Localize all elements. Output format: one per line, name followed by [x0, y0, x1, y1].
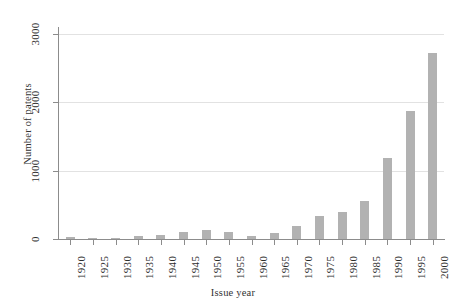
bar-1935 — [134, 236, 143, 239]
x-tick-label-1950: 1950 — [211, 256, 223, 279]
bar-1950 — [202, 230, 211, 239]
bar-1930 — [111, 238, 120, 240]
x-tick-mark-1950 — [206, 240, 207, 245]
y-tick-label-0: 0 — [29, 222, 41, 256]
bar-1990 — [383, 158, 392, 239]
x-tick-label-1975: 1975 — [324, 256, 336, 279]
y-tick-label-3000: 3000 — [29, 17, 41, 51]
y-tick-mark-1000 — [53, 171, 59, 172]
x-tick-label-1960: 1960 — [257, 256, 269, 279]
bar-1995 — [406, 111, 415, 239]
x-tick-mark-1985 — [365, 240, 366, 245]
x-tick-mark-1930 — [116, 240, 117, 245]
x-tick-label-2000: 2000 — [438, 256, 450, 279]
bar-1955 — [224, 232, 233, 239]
x-tick-label-1980: 1980 — [347, 256, 359, 279]
x-axis-title: Issue year — [0, 287, 466, 298]
x-tick-mark-1980 — [342, 240, 343, 245]
y-tick-label-2000: 2000 — [29, 85, 41, 119]
x-tick-label-1990: 1990 — [392, 256, 404, 279]
x-tick-label-1930: 1930 — [121, 256, 133, 279]
x-tick-label-1965: 1965 — [279, 256, 291, 279]
y-tick-mark-2000 — [53, 102, 59, 103]
x-tick-mark-1925 — [93, 240, 94, 245]
x-tick-label-1955: 1955 — [234, 256, 246, 279]
x-tick-mark-1945 — [184, 240, 185, 245]
x-tick-label-1940: 1940 — [166, 256, 178, 279]
bar-1925 — [88, 238, 97, 240]
x-tick-label-1985: 1985 — [370, 256, 382, 279]
y-tick-label-1000: 1000 — [29, 154, 41, 188]
x-tick-mark-1940 — [161, 240, 162, 245]
y-tick-mark-3000 — [53, 34, 59, 35]
patent-bar-chart: Number of patents 0100020003000 19201925… — [0, 0, 466, 306]
bars-group — [59, 27, 444, 239]
x-tick-mark-1935 — [138, 240, 139, 245]
bar-1920 — [66, 237, 75, 239]
x-tick-mark-2000 — [433, 240, 434, 245]
bar-2000 — [428, 53, 437, 239]
x-tick-label-1925: 1925 — [98, 256, 110, 279]
x-tick-label-1995: 1995 — [415, 256, 427, 279]
x-tick-label-1970: 1970 — [302, 256, 314, 279]
x-tick-mark-1965 — [274, 240, 275, 245]
bar-1975 — [315, 216, 324, 239]
bar-1980 — [338, 212, 347, 239]
x-tick-label-1920: 1920 — [75, 256, 87, 279]
x-tick-label-1945: 1945 — [189, 256, 201, 279]
bar-1970 — [292, 226, 301, 239]
bar-1960 — [247, 236, 256, 239]
x-tick-label-1935: 1935 — [143, 256, 155, 279]
x-tick-mark-1975 — [319, 240, 320, 245]
x-tick-mark-1960 — [252, 240, 253, 245]
x-tick-mark-1970 — [297, 240, 298, 245]
bar-1985 — [360, 201, 369, 239]
bar-1945 — [179, 232, 188, 239]
x-tick-mark-1995 — [410, 240, 411, 245]
x-tick-mark-1920 — [70, 240, 71, 245]
bar-1965 — [270, 233, 279, 239]
y-tick-mark-0 — [53, 239, 59, 240]
x-tick-mark-1955 — [229, 240, 230, 245]
x-tick-mark-1990 — [387, 240, 388, 245]
bar-1940 — [156, 235, 165, 239]
